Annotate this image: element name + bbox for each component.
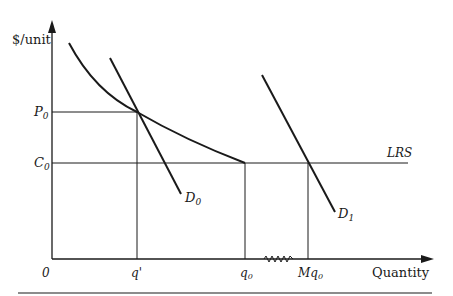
q-prime-label: q' [131, 266, 142, 280]
origin-label: 0 [42, 266, 50, 280]
y-axis-label: $/unit [12, 32, 52, 47]
mq0-label: Mq0 [297, 266, 323, 281]
x-axis-arrow-icon [421, 255, 434, 263]
demand-d1-line [262, 75, 335, 212]
p0-label: P0 [33, 104, 49, 121]
average-cost-curve [69, 43, 245, 163]
lrs-label: LRS [386, 146, 412, 160]
q0-label: q0 [240, 266, 253, 281]
demand-d0-line [110, 58, 181, 194]
d0-label: D0 [184, 190, 201, 207]
c0-label: C0 [34, 155, 50, 172]
d1-label: D1 [337, 206, 354, 223]
economies-of-scale-diagram: $/unit Quantity 0 P0 C0 q' q0 Mq0 LRS D0… [0, 0, 453, 296]
x-axis-label: Quantity [372, 265, 430, 280]
